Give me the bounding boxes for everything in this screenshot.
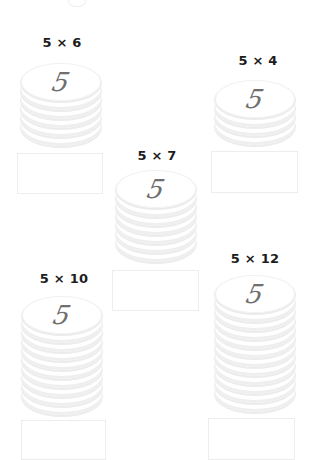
coin-value-five-icon: 5 bbox=[244, 86, 266, 112]
coin-value-five-icon: 5 bbox=[50, 69, 72, 95]
coin-value-five-icon: 5 bbox=[244, 281, 266, 307]
coin-value-five-icon: 5 bbox=[145, 176, 167, 202]
answer-box[interactable] bbox=[211, 151, 298, 193]
top-coin: 5 bbox=[215, 275, 295, 313]
problem-label: 5 × 12 bbox=[231, 251, 279, 266]
top-coin: 5 bbox=[22, 296, 102, 334]
top-coin: 5 bbox=[215, 80, 295, 118]
answer-box[interactable] bbox=[208, 418, 295, 460]
coin-value-five-icon: 5 bbox=[51, 302, 73, 328]
answer-box[interactable] bbox=[17, 153, 103, 194]
answer-box[interactable] bbox=[112, 270, 199, 311]
problem-label: 5 × 6 bbox=[42, 35, 81, 50]
problem-label: 5 × 4 bbox=[238, 53, 277, 68]
top-coin: 5 bbox=[116, 170, 196, 208]
top-coin: 5 bbox=[21, 63, 101, 101]
answer-box[interactable] bbox=[21, 420, 106, 460]
problem-label: 5 × 10 bbox=[40, 271, 88, 286]
partial-coin-edge bbox=[68, 0, 86, 7]
problem-label: 5 × 7 bbox=[137, 148, 176, 163]
